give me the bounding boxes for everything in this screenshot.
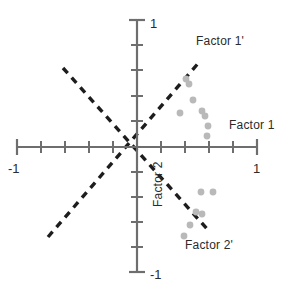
x-axis-min-value: -1 — [8, 161, 20, 176]
data-point — [204, 133, 211, 140]
factor-2-prime-label: Factor 2' — [185, 238, 233, 252]
plot-canvas: Factor 1' Factor 1 Factor 2' Factor 2 1 … — [0, 0, 282, 285]
factor-2-label: Factor 2 — [151, 161, 165, 207]
factor-1-prime-label: Factor 1' — [196, 34, 244, 48]
data-points-group — [177, 76, 217, 240]
data-point — [210, 189, 217, 196]
factor-2-prime-rotation-line — [63, 68, 208, 230]
data-point — [193, 209, 200, 216]
data-point — [177, 110, 184, 117]
labels-group: Factor 1' Factor 1 Factor 2' Factor 2 1 … — [8, 16, 275, 282]
data-point — [190, 97, 197, 104]
data-point — [187, 222, 194, 229]
factor-rotation-plot: Factor 1' Factor 1 Factor 2' Factor 2 1 … — [0, 0, 282, 285]
data-point — [202, 113, 209, 120]
x-axis-max-value: 1 — [253, 161, 260, 176]
y-axis-max-value: 1 — [150, 16, 157, 31]
data-point — [199, 211, 206, 218]
y-axis-min-value: -1 — [150, 267, 162, 282]
data-point — [186, 81, 193, 88]
data-point — [198, 189, 205, 196]
factor-1-label: Factor 1 — [229, 118, 275, 132]
data-point — [205, 123, 212, 130]
factor-1-prime-rotation-line — [48, 60, 201, 237]
